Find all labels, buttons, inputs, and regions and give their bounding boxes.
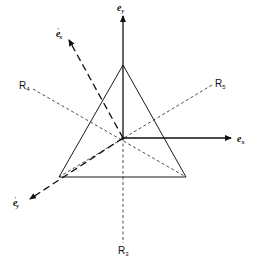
reflection-line-r4: [33, 89, 186, 177]
axis-ex-prime: [69, 40, 123, 138]
label-ex-sub: x: [241, 139, 244, 145]
symmetry-diagram: [0, 0, 258, 271]
label-r3-sub: 3: [125, 251, 128, 257]
label-exp-sup: ′: [57, 27, 59, 33]
label-r4: R4: [19, 81, 30, 92]
label-eyp-sub: y: [16, 203, 19, 209]
label-ey-prime: e′y: [13, 196, 19, 209]
label-exp-sub: x: [59, 34, 62, 40]
label-r5: R5: [215, 79, 226, 90]
label-r3: R3: [118, 246, 129, 257]
label-r4-sub: 4: [26, 86, 29, 92]
label-ey-sub: y: [121, 8, 124, 14]
label-ex: ex: [237, 134, 244, 145]
label-ex-prime: e′x: [56, 27, 62, 40]
label-r5-sub: 5: [222, 84, 225, 90]
label-ey: ey: [117, 3, 124, 14]
reflection-line-r5: [59, 85, 212, 177]
origin-point: [121, 136, 124, 139]
label-eyp-sup: ′: [14, 196, 16, 202]
